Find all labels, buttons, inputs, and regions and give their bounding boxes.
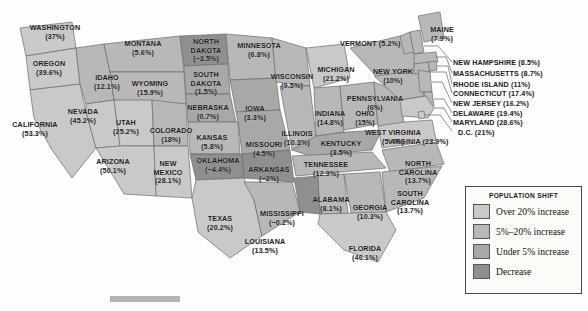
scale-bar bbox=[110, 296, 180, 302]
label-nebraska-value: (0.7%) bbox=[197, 112, 219, 121]
label-arizona: ARIZONA (50.1%) bbox=[86, 158, 140, 175]
label-tennessee: TENNESSEE (12.9%) bbox=[295, 161, 357, 178]
label-south-carolina-value: (13.7%) bbox=[397, 206, 423, 215]
callout-maryland: MARYLAND (28.6%) bbox=[453, 118, 523, 127]
legend-label-under-5: Under 5% increase bbox=[496, 246, 569, 257]
label-south-carolina: SOUTH CAROLINA (13.7%) bbox=[382, 190, 438, 216]
label-ohio: OHIO (15%) bbox=[348, 110, 382, 127]
label-nevada-value: (45.2%) bbox=[70, 116, 96, 125]
legend-label-5-to-20: 5%–20% increase bbox=[496, 226, 565, 237]
label-florida: FLORIDA (46.1%) bbox=[340, 245, 390, 262]
label-maine-value: (7.9%) bbox=[431, 34, 453, 43]
label-michigan: MICHIGAN (21.2%) bbox=[310, 66, 362, 83]
legend-row-under-5: Under 5% increase bbox=[473, 243, 581, 260]
label-wisconsin-value: (9.5%) bbox=[281, 81, 303, 90]
label-utah-value: (25.2%) bbox=[113, 127, 139, 136]
label-minnesota-value: (6.8%) bbox=[248, 50, 270, 59]
label-oregon-value: (39.6%) bbox=[36, 68, 62, 77]
legend-row-over-20: Over 20% increase bbox=[473, 203, 581, 220]
label-iowa: IOWA (3.3%) bbox=[235, 105, 275, 122]
label-florida-value: (46.1%) bbox=[352, 253, 378, 262]
label-louisiana-value: (13.5%) bbox=[252, 246, 278, 255]
state-new-jersey bbox=[418, 70, 432, 92]
label-arkansas-value: (−2%) bbox=[259, 174, 279, 183]
legend-label-decrease: Decrease bbox=[496, 266, 531, 277]
label-new-mexico-value: (28.1%) bbox=[155, 176, 181, 185]
label-new-york: NEW YORK (10%) bbox=[366, 68, 420, 85]
label-tennessee-value: (12.9%) bbox=[313, 169, 339, 178]
label-mississippi: MISSISSIPPI (−0.2%) bbox=[252, 210, 312, 227]
label-oklahoma: OKLAHOMA (−4.4%) bbox=[190, 157, 246, 174]
label-south-dakota: SOUTH DAKOTA (1.5%) bbox=[182, 71, 230, 97]
label-nebraska: NEBRASKA (0.7%) bbox=[181, 104, 235, 121]
state-dc bbox=[418, 111, 425, 119]
callout-massachusetts: MASSACHUSETTS (8.7%) bbox=[453, 69, 543, 78]
legend-swatch-5-to-20 bbox=[473, 224, 490, 239]
label-michigan-value: (21.2%) bbox=[323, 74, 349, 83]
callout-rhode-island: RHODE ISLAND (11%) bbox=[453, 80, 530, 89]
legend-swatch-under-5 bbox=[473, 244, 490, 259]
label-north-dakota-value: (−3.5%) bbox=[193, 54, 219, 63]
legend-title: POPULATION SHIFT bbox=[466, 192, 581, 199]
label-montana-value: (5.6%) bbox=[132, 48, 154, 57]
label-texas-value: (20.2%) bbox=[207, 223, 233, 232]
label-texas: TEXAS (20.2%) bbox=[196, 215, 244, 232]
legend-row-decrease: Decrease bbox=[473, 263, 581, 280]
label-kansas-value: (5.8%) bbox=[201, 142, 223, 151]
label-washington-value: (37%) bbox=[45, 32, 65, 41]
callout-connecticut: CONNECTICUT (17.4%) bbox=[453, 89, 534, 98]
label-missouri-value: (4.5%) bbox=[253, 149, 275, 158]
label-washington: WASHINGTON (37%) bbox=[24, 24, 86, 41]
label-montana: MONTANA (5.6%) bbox=[116, 40, 170, 57]
label-vermont: VERMONT (5.2%) bbox=[340, 40, 401, 49]
label-south-dakota-value: (1.5%) bbox=[195, 87, 217, 96]
label-ohio-value: (15%) bbox=[355, 118, 375, 127]
label-oklahoma-value: (−4.4%) bbox=[205, 165, 231, 174]
label-indiana: INDIANA (14.8%) bbox=[306, 110, 354, 127]
legend-row-5-to-20: 5%–20% increase bbox=[473, 223, 581, 240]
legend-swatch-over-20 bbox=[473, 204, 490, 219]
label-colorado-value: (18%) bbox=[161, 135, 181, 144]
label-arizona-value: (50.1%) bbox=[100, 166, 126, 175]
label-louisiana: LOUISIANA (13.5%) bbox=[238, 238, 292, 255]
label-minnesota: MINNESOTA (6.8%) bbox=[230, 42, 288, 59]
legend-label-over-20: Over 20% increase bbox=[496, 206, 569, 217]
label-oregon: OREGON (39.6%) bbox=[18, 60, 80, 77]
legend-swatch-decrease bbox=[473, 264, 490, 279]
label-wyoming-value: (15.9%) bbox=[137, 88, 163, 97]
label-kansas: KANSAS (5.8%) bbox=[188, 134, 236, 151]
label-nevada: NEVADA (45.2%) bbox=[56, 108, 110, 125]
label-pennsylvania: PENNSYLVANIA (6%) bbox=[338, 95, 412, 112]
label-mississippi-value: (−0.2%) bbox=[269, 218, 295, 227]
label-pennsylvania-value: (6%) bbox=[367, 103, 383, 112]
label-wyoming: WYOMING (15.9%) bbox=[122, 80, 178, 97]
label-alabama-value: (8.1%) bbox=[320, 204, 342, 213]
label-north-carolina-value: (13.7%) bbox=[405, 176, 431, 185]
label-new-york-value: (10%) bbox=[383, 76, 403, 85]
label-georgia-value: (10.3%) bbox=[357, 212, 383, 221]
label-california-value: (53.3%) bbox=[22, 129, 48, 138]
callout-dc: D.C. (21%) bbox=[458, 128, 495, 137]
label-virginia: VIRGINIA (23.9%) bbox=[388, 138, 448, 147]
map-legend: POPULATION SHIFT Over 20% increase 5%–20… bbox=[465, 186, 582, 294]
label-iowa-value: (3.3%) bbox=[244, 113, 266, 122]
callout-new-hampshire: NEW HAMPSHIRE (8.5%) bbox=[453, 58, 540, 67]
label-north-carolina: NORTH CAROLINA (13.7%) bbox=[390, 160, 446, 186]
label-maine: MAINE (7.9%) bbox=[420, 26, 464, 43]
label-indiana-value: (14.8%) bbox=[317, 118, 343, 127]
label-idaho-value: (12.1%) bbox=[94, 82, 120, 91]
label-new-mexico: NEW MEXICO (28.1%) bbox=[142, 160, 194, 186]
label-illinois-value: (10.3%) bbox=[284, 138, 310, 147]
label-arkansas: ARKANSAS (−2%) bbox=[243, 166, 295, 183]
label-kentucky-value: (3.5%) bbox=[330, 148, 352, 157]
label-north-dakota: NORTH DAKOTA (−3.5%) bbox=[182, 38, 230, 64]
callout-delaware: DELAWARE (19.4%) bbox=[453, 109, 523, 118]
state-rhode-island bbox=[428, 61, 437, 71]
population-shift-map-figure: WASHINGTON (37%) OREGON (39.6%) CALIFORN… bbox=[0, 0, 588, 311]
callout-new-jersey: NEW JERSEY (16.2%) bbox=[453, 99, 529, 108]
